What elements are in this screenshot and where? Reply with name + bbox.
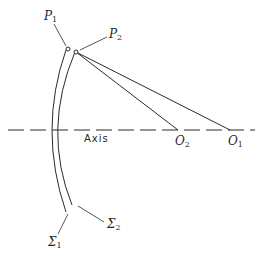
point-p2-marker <box>74 50 78 54</box>
label-p2-sub: 2 <box>117 33 122 42</box>
diagram-graphics <box>0 0 260 258</box>
leader-p2 <box>80 37 107 50</box>
label-o1-letter: O <box>228 134 238 148</box>
ray-to-o1 <box>76 52 230 130</box>
axis-label: Axis <box>84 134 109 144</box>
label-o2-letter: O <box>175 134 185 148</box>
surface-sigma-1 <box>52 50 66 212</box>
label-p2-letter: P <box>109 27 117 41</box>
label-sigma-1: Σ1 <box>48 236 62 250</box>
label-p1-sub: 1 <box>52 15 57 24</box>
label-o1: O1 <box>228 135 243 149</box>
label-p1: P1 <box>44 10 57 24</box>
surface-sigma-2 <box>58 52 75 205</box>
label-sigma-2-sub: 2 <box>115 223 120 232</box>
label-o1-sub: 1 <box>238 140 243 149</box>
label-o2: O2 <box>175 135 190 149</box>
label-p2: P2 <box>109 28 122 42</box>
leader-sigma-1 <box>58 214 68 234</box>
label-sigma-1-sub: 1 <box>56 241 61 250</box>
label-p1-letter: P <box>44 9 52 23</box>
label-sigma-2: Σ2 <box>107 218 121 232</box>
ray-to-o2 <box>76 52 178 130</box>
optics-diagram: P1 P2 Axis O2 O1 Σ2 Σ1 <box>0 0 260 258</box>
leader-sigma-2 <box>78 206 104 222</box>
point-p1-marker <box>66 47 70 51</box>
label-o2-sub: 2 <box>185 140 190 149</box>
leader-p1 <box>54 24 66 46</box>
